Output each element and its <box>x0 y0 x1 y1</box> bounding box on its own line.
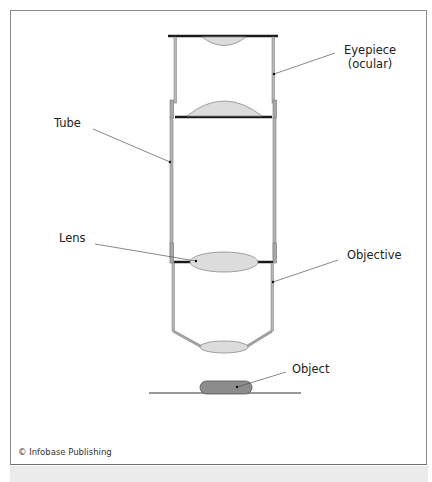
objective-right-wall <box>271 263 274 331</box>
field-lens-icon <box>187 101 262 116</box>
objective-label: Objective <box>347 248 402 262</box>
eyepiece-lens-icon <box>202 37 246 46</box>
tube-left-wall <box>170 118 173 258</box>
upper-collar-left <box>170 100 174 118</box>
upper-collar-right <box>273 100 277 118</box>
lower-collar-left <box>170 243 174 263</box>
objective-right-taper <box>246 331 272 347</box>
lens-leader-line <box>95 244 196 261</box>
objective-left-wall <box>172 263 175 331</box>
eyepiece-leader-line <box>274 53 335 74</box>
eyepiece-label: Eyepiece (ocular) <box>344 43 396 71</box>
tube-label: Tube <box>54 116 81 130</box>
eyepiece-label-line1: Eyepiece <box>344 43 396 57</box>
object-specimen-icon <box>200 381 252 394</box>
object-label: Object <box>292 362 329 376</box>
objective-left-taper <box>173 331 202 347</box>
eyepiece-tube-right-wall <box>272 37 275 103</box>
lower-collar-right <box>273 243 277 263</box>
objective-lens-icon <box>200 341 248 353</box>
copyright-credit: © Infobase Publishing <box>18 447 112 457</box>
eyepiece-tube-left-wall <box>174 37 177 103</box>
tube-right-wall <box>273 118 276 258</box>
objective-leader-line <box>273 260 338 282</box>
lens-icon <box>190 252 258 272</box>
lens-label: Lens <box>59 231 86 245</box>
object-leader-line <box>237 372 286 387</box>
eyepiece-label-line2: (ocular) <box>344 57 396 71</box>
tube-leader-line <box>93 129 170 162</box>
